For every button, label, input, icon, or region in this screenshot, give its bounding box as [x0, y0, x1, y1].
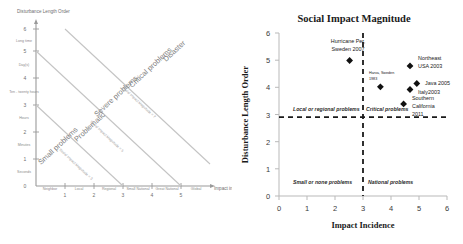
left-y-tick-6: 6 — [24, 26, 27, 32]
right-chart-svg: Social Impact Magnitude 0 1 2 3 4 5 6 0 — [232, 0, 463, 244]
right-x-tick-6: 6 — [445, 204, 449, 213]
left-x-tick-3: 3 — [122, 192, 125, 198]
right-x-tick-2: 2 — [333, 204, 337, 213]
data-label-harva-sweden-line1: Harva, Sweden — [369, 71, 394, 75]
right-chart-title: Social Impact Magnitude — [297, 13, 411, 24]
left-x-cat-local: Local — [75, 187, 84, 191]
left-y-cat-hours: Hours — [19, 116, 29, 120]
data-point-northeast-usa[interactable] — [407, 63, 414, 70]
left-y-tick-2: 2 — [24, 129, 27, 135]
left-x-cat-small-national: Small National — [126, 187, 149, 191]
right-x-tick-4: 4 — [389, 204, 393, 213]
left-y-cat-minutes: Minutes — [18, 143, 31, 147]
right-y-tick-6: 6 — [266, 29, 270, 38]
data-label-southern-california-line2: California — [412, 103, 435, 109]
left-x-tick-4: 4 — [151, 192, 154, 198]
right-x-axis-title: Impact Incidence — [331, 220, 394, 230]
right-x-ticks: 0 1 2 3 4 5 6 — [277, 196, 449, 213]
right-y-axis-title: Disturbance Length Order — [240, 66, 250, 164]
left-x-cat-global: Global — [191, 187, 202, 191]
left-y-tick-5: 5 — [24, 48, 27, 54]
right-y-tick-4: 4 — [266, 83, 270, 92]
left-x-cat-great-national: Great National — [155, 187, 178, 191]
right-y-tick-5: 5 — [266, 56, 270, 65]
left-x-tick-1: 1 — [64, 192, 67, 198]
right-y-tick-0: 0 — [266, 192, 270, 201]
left-y-axis-title-line1: Disturbance Length Order — [17, 9, 70, 14]
data-label-hurricane-per-line2: Sweden 2007 — [332, 46, 365, 52]
right-quadrant-critical: Critical problems — [366, 106, 408, 112]
left-x-category-labels: Neighbor Local Regional Small National G… — [43, 187, 202, 191]
left-y-tick-1: 1 — [24, 156, 27, 162]
data-point-java[interactable] — [413, 80, 420, 87]
left-y-cat-tentwenty: Ten - twenty hours — [9, 90, 39, 94]
data-label-harva-sweden-line2: 1983 — [369, 77, 377, 81]
data-point-italy[interactable] — [407, 86, 414, 93]
left-line-sim-3 — [36, 105, 123, 186]
left-x-cat-regional: Regional — [102, 187, 116, 191]
left-y-tick-4: 4 — [24, 75, 27, 81]
data-label-southern-california-line3: 2011 — [412, 111, 424, 117]
right-quadrant-national: National problems — [368, 179, 413, 185]
left-y-tick-0: 0 — [24, 183, 27, 189]
right-y-tick-3: 3 — [266, 111, 270, 120]
left-y-cat-longtime: Long time — [16, 39, 32, 43]
left-x-cat-neighbor: Neighbor — [43, 187, 58, 191]
left-y-ticks: 1 2 3 4 5 6 0 — [24, 26, 39, 189]
right-x-tick-5: 5 — [417, 204, 421, 213]
right-quadrant-small-none: Small or none problems — [293, 179, 352, 185]
left-line-sim-5 — [36, 51, 181, 186]
data-label-hurricane-per-line1: Hurricane Per, — [331, 38, 366, 44]
data-label-northeast-usa-line2: USA 2003 — [418, 63, 442, 69]
data-label-northeast-usa-line1: Northeast — [418, 55, 442, 61]
right-chart-panel: Social Impact Magnitude 0 1 2 3 4 5 6 0 — [232, 0, 463, 244]
right-data-markers — [346, 57, 420, 107]
left-y-tick-3: 3 — [24, 102, 27, 108]
left-x-tick-2: 2 — [93, 192, 96, 198]
data-point-hurricane-per[interactable] — [346, 57, 353, 64]
left-line-label-sim-3: Social Impact Magnitude = 3 — [58, 148, 93, 181]
left-chart-svg: Disturbance Length Order 1 2 3 4 5 6 0 S… — [0, 0, 232, 244]
data-label-java: Java 2005 — [425, 80, 450, 86]
data-point-harva-sweden[interactable] — [377, 83, 384, 90]
left-y-cat-days: Day(s) — [19, 63, 30, 67]
right-quadrant-local-regional: Local or regional problems — [293, 106, 360, 112]
data-label-southern-california-line1: Southern — [412, 95, 434, 101]
right-y-tick-1: 1 — [266, 165, 270, 174]
right-x-tick-1: 1 — [305, 204, 309, 213]
right-x-tick-0: 0 — [277, 204, 281, 213]
left-chart-panel: Disturbance Length Order 1 2 3 4 5 6 0 S… — [0, 0, 232, 244]
left-y-axis-arrow — [34, 19, 38, 24]
right-x-tick-3: 3 — [361, 204, 365, 213]
left-x-axis-title: Impact incidence — [214, 186, 232, 191]
right-y-tick-2: 2 — [266, 138, 270, 147]
left-line-sim-7 — [65, 29, 210, 164]
left-y-cat-seconds: Seconds — [17, 170, 31, 174]
right-y-ticks: 0 1 2 3 4 5 6 — [266, 29, 279, 201]
left-x-tick-5: 5 — [180, 192, 183, 198]
